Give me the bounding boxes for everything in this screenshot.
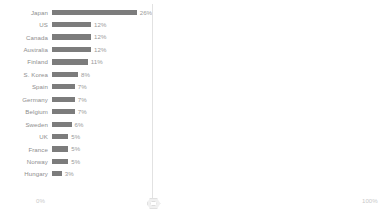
chart-row: UK5% bbox=[0, 130, 384, 142]
bar-value-label: 12% bbox=[94, 46, 106, 53]
bar-value-label: 12% bbox=[94, 21, 106, 28]
category-label: Norway bbox=[0, 158, 52, 165]
bar-track: 8% bbox=[52, 68, 384, 80]
chart-row: Belgium7% bbox=[0, 106, 384, 118]
bar-value-label: 5% bbox=[71, 145, 80, 152]
bar bbox=[52, 34, 91, 39]
bar-track: 7% bbox=[52, 93, 384, 105]
bar-track: 3% bbox=[52, 168, 384, 180]
vertical-guide-line bbox=[152, 4, 153, 198]
bar-track: 11% bbox=[52, 56, 384, 68]
bar-value-label: 8% bbox=[81, 71, 90, 78]
bar-track: 12% bbox=[52, 43, 384, 55]
category-label: Hungary bbox=[0, 170, 52, 177]
category-label: Canada bbox=[0, 34, 52, 41]
category-label: US bbox=[0, 21, 52, 28]
bar-value-label: 26% bbox=[140, 9, 152, 16]
chart-row: Canada12% bbox=[0, 31, 384, 43]
chart-row: Finland11% bbox=[0, 56, 384, 68]
bar-chart: Japan26%US12%Canada12%Australia12%Finlan… bbox=[0, 0, 384, 217]
bar bbox=[52, 47, 91, 52]
bar-track: 7% bbox=[52, 106, 384, 118]
chart-row: Norway5% bbox=[0, 155, 384, 167]
bar bbox=[52, 159, 68, 164]
x-axis: 0% 100% bbox=[0, 196, 384, 208]
category-label: Finland bbox=[0, 58, 52, 65]
bar bbox=[52, 122, 72, 127]
bar-value-label: 3% bbox=[65, 170, 74, 177]
bar-value-label: 7% bbox=[78, 96, 87, 103]
bar bbox=[52, 109, 75, 114]
chart-row: Australia12% bbox=[0, 43, 384, 55]
chart-rows: Japan26%US12%Canada12%Australia12%Finlan… bbox=[0, 6, 384, 180]
category-label: France bbox=[0, 146, 52, 153]
category-label: UK bbox=[0, 133, 52, 140]
bar bbox=[52, 134, 68, 139]
bar-value-label: 7% bbox=[78, 108, 87, 115]
bar-track: 6% bbox=[52, 118, 384, 130]
chart-row: Spain7% bbox=[0, 81, 384, 93]
bar bbox=[52, 84, 75, 89]
bar-track: 5% bbox=[52, 130, 384, 142]
bar-value-label: 11% bbox=[91, 58, 103, 65]
bar bbox=[52, 59, 88, 64]
bar bbox=[52, 72, 78, 77]
bar-track: 26% bbox=[52, 6, 384, 18]
axis-tick-max: 100% bbox=[362, 197, 378, 205]
bar-track: 12% bbox=[52, 31, 384, 43]
bar-value-label: 5% bbox=[71, 133, 80, 140]
category-label: Belgium bbox=[0, 108, 52, 115]
bar bbox=[52, 10, 137, 15]
chart-row: US12% bbox=[0, 18, 384, 30]
chart-row: Hungary3% bbox=[0, 168, 384, 180]
bar-track: 7% bbox=[52, 81, 384, 93]
category-label: Australia bbox=[0, 46, 52, 53]
bar bbox=[52, 97, 75, 102]
chart-row: S. Korea8% bbox=[0, 68, 384, 80]
bar bbox=[52, 22, 91, 27]
category-label: Spain bbox=[0, 83, 52, 90]
bar-value-label: 12% bbox=[94, 33, 106, 40]
bar-track: 12% bbox=[52, 18, 384, 30]
category-label: Sweden bbox=[0, 121, 52, 128]
bar-value-label: 6% bbox=[75, 121, 84, 128]
category-label: Japan bbox=[0, 9, 52, 16]
category-label: S. Korea bbox=[0, 71, 52, 78]
category-label: Germany bbox=[0, 96, 52, 103]
chart-row: Japan26% bbox=[0, 6, 384, 18]
bar bbox=[52, 171, 62, 176]
bar bbox=[52, 146, 68, 151]
chart-row: France5% bbox=[0, 143, 384, 155]
chart-row: Sweden6% bbox=[0, 118, 384, 130]
axis-tick-min: 0% bbox=[36, 197, 45, 205]
bar-value-label: 7% bbox=[78, 83, 87, 90]
bar-track: 5% bbox=[52, 143, 384, 155]
bar-value-label: 5% bbox=[71, 158, 80, 165]
bar-track: 5% bbox=[52, 155, 384, 167]
chart-row: Germany7% bbox=[0, 93, 384, 105]
